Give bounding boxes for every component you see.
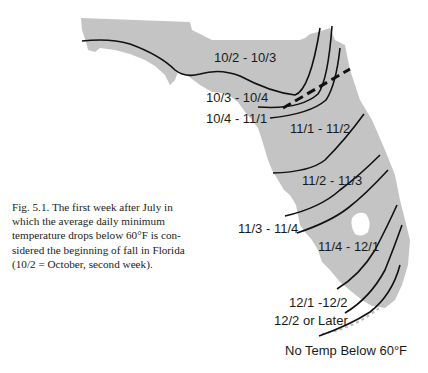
zone-label-12-2-or-later: 12/2 or Later	[274, 314, 348, 327]
zone-label-11-3-11-4: 11/3 - 11/4	[238, 222, 298, 235]
figure-caption: Fig. 5.1. The first week after July in w…	[12, 200, 212, 271]
zone-label-10-3-10-4: 10/3 - 10/4	[206, 91, 268, 104]
zone-label-10-4-11-1: 10/4 - 11/1	[206, 112, 267, 125]
zone-label-11-1-11-2: 11/1 - 11/2	[290, 122, 350, 135]
lake-okeechobee	[351, 213, 369, 236]
caption-line: sidered the beginning of fall in Florida	[12, 243, 212, 257]
zone-label-11-2-11-3: 11/2 - 11/3	[302, 174, 362, 187]
caption-line: Fig. 5.1. The first week after July in	[12, 200, 212, 214]
zone-label-11-4-12-1: 11/4 - 12/1	[318, 240, 379, 253]
zone-label-no-temp-below-60: No Temp Below 60°F	[285, 344, 407, 357]
caption-line: temperature drops below 60°F is con-	[12, 228, 212, 242]
caption-line: which the average daily minimum	[12, 214, 212, 228]
zone-label-12-1-12-2: 12/1 -12/2	[289, 296, 348, 309]
zone-label-10-2-10-3: 10/2 - 10/3	[214, 51, 276, 64]
caption-line: (10/2 = October, second week).	[12, 257, 212, 271]
